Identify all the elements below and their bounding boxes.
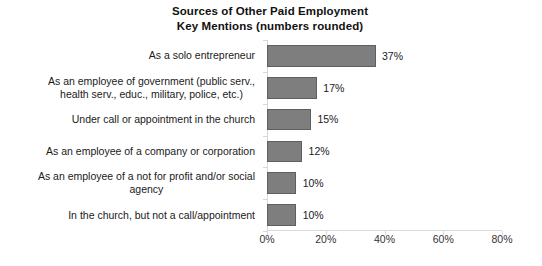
value-axis-tick-labels: 0% 20% 40% 60% 80% <box>0 232 542 248</box>
bar-row: 12% <box>267 136 502 168</box>
chart-container: Sources of Other Paid Employment Key Men… <box>0 0 542 266</box>
x-tick-label-0: 0% <box>237 232 297 246</box>
bar-0[interactable] <box>267 45 376 67</box>
bar-2[interactable] <box>267 109 311 131</box>
bar-4[interactable] <box>267 172 296 194</box>
category-label-2: Under call or appointment in the church <box>0 104 261 136</box>
chart-title-line-1: Sources of Other Paid Employment <box>0 4 542 19</box>
bar-value-5: 10% <box>303 209 324 221</box>
bar-row: 15% <box>267 104 502 136</box>
category-axis-labels: As a solo entrepreneur As an employee of… <box>0 40 261 231</box>
category-label-line-2: health serv., educ., military, police, e… <box>60 88 243 100</box>
bar-1[interactable] <box>267 77 317 99</box>
bar-row: 37% <box>267 40 502 72</box>
chart-title: Sources of Other Paid Employment Key Men… <box>0 4 542 34</box>
x-tick-label-3: 60% <box>413 232 473 246</box>
bar-3[interactable] <box>267 141 302 163</box>
bar-row: 17% <box>267 72 502 104</box>
bar-value-3: 12% <box>309 145 330 157</box>
bar-row: 10% <box>267 167 502 199</box>
category-label-5: In the church, but not a call/appointmen… <box>0 199 261 231</box>
category-label-text: As an employee of government (public ser… <box>48 75 255 101</box>
bar-5[interactable] <box>267 204 296 226</box>
bar-row: 10% <box>267 199 502 231</box>
category-label-line-2: agency <box>130 183 164 195</box>
x-tick-label-2: 40% <box>355 232 415 246</box>
x-tick-label-1: 20% <box>296 232 356 246</box>
category-label-1: As an employee of government (public ser… <box>0 72 261 104</box>
category-label-text: In the church, but not a call/appointmen… <box>68 209 255 222</box>
bar-value-1: 17% <box>323 82 344 94</box>
category-label-text: As an employee of a not for profit and/o… <box>38 170 255 196</box>
category-label-0: As a solo entrepreneur <box>0 40 261 72</box>
category-label-line-1: As an employee of a not for profit and/o… <box>38 170 255 182</box>
bar-value-0: 37% <box>382 50 403 62</box>
x-tick-label-4: 80% <box>472 232 532 246</box>
chart-title-line-2: Key Mentions (numbers rounded) <box>0 19 542 34</box>
category-label-text: Under call or appointment in the church <box>72 113 255 126</box>
bar-value-4: 10% <box>303 177 324 189</box>
category-label-text: As a solo entrepreneur <box>149 49 255 62</box>
category-label-line-1: As an employee of government (public ser… <box>48 75 255 87</box>
bar-value-2: 15% <box>317 113 338 125</box>
plot-area: 37% 17% 15% 12% 10% 10% <box>267 40 502 231</box>
category-label-3: As an employee of a company or corporati… <box>0 136 261 168</box>
category-label-4: As an employee of a not for profit and/o… <box>0 167 261 199</box>
category-label-text: As an employee of a company or corporati… <box>46 145 255 158</box>
